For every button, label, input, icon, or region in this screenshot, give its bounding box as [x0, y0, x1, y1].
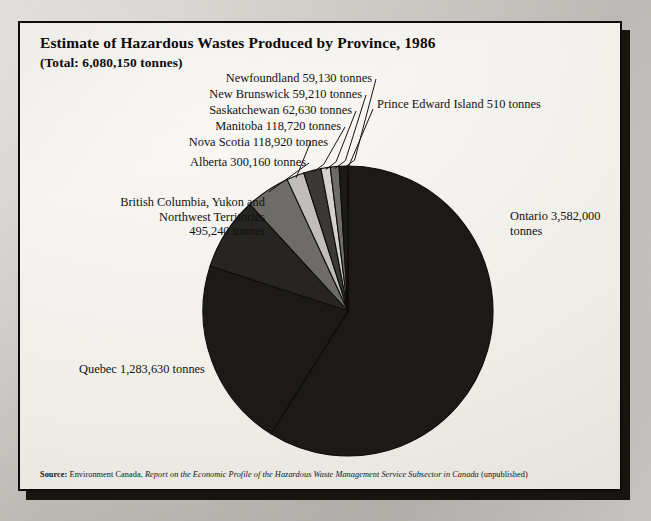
label-british-columbia-line1: British Columbia, Yukon and [40, 195, 265, 210]
label-british-columbia-line2: Northwest Territories [40, 210, 265, 225]
label-new-brunswick: New Brunswick 59,210 tonnes [40, 87, 362, 102]
label-quebec: Quebec 1,283,630 tonnes [79, 362, 205, 377]
source-agency: Environment Canada, [70, 470, 143, 479]
figure-plate: Estimate of Hazardous Wastes Produced by… [18, 21, 622, 491]
source-unpublished: (unpublished) [481, 470, 528, 479]
label-saskatchewan: Saskatchewan 62,630 tonnes [40, 103, 352, 118]
label-prince-edward-island: Prince Edward Island 510 tonnes [377, 97, 541, 112]
leader-manitoba [313, 127, 345, 172]
label-ontario-line1: Ontario 3,582,000 [510, 209, 601, 224]
source-note: Source: Environment Canada, Report on th… [40, 470, 528, 479]
label-alberta: Alberta 300,160 tonnes [40, 155, 306, 170]
label-nova-scotia: Nova Scotia 118,920 tonnes [40, 135, 328, 150]
label-manitoba: Manitoba 118,720 tonnes [40, 119, 341, 134]
figure-plate-inner: Estimate of Hazardous Wastes Produced by… [20, 23, 620, 489]
source-prefix: Source: [40, 470, 67, 479]
label-british-columbia: British Columbia, Yukon and Northwest Te… [40, 195, 265, 239]
page-background: Estimate of Hazardous Wastes Produced by… [0, 0, 651, 521]
label-ontario: Ontario 3,582,000 tonnes [510, 209, 601, 238]
label-newfoundland: Newfoundland 59,130 tonnes [40, 71, 372, 86]
leader-prince-edward-island [348, 109, 373, 168]
label-british-columbia-line3: 495,240 tonnes [40, 224, 265, 239]
source-title: Report on the Economic Profile of the Ha… [145, 470, 479, 479]
label-ontario-line2: tonnes [510, 224, 601, 239]
